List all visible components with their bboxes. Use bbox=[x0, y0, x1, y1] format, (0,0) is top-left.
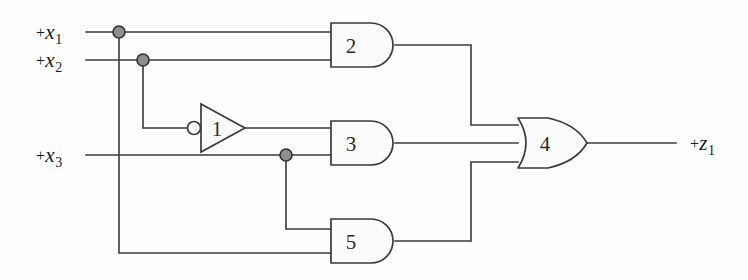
gate-2-body bbox=[331, 23, 393, 67]
junction-dot-x1 bbox=[113, 26, 125, 38]
inverter-bubble-icon bbox=[188, 122, 201, 135]
input-label-x3: +x3 bbox=[36, 143, 62, 171]
circuit-canvas: 2 3 5 4 1 bbox=[0, 0, 748, 280]
output-z1-sign: + bbox=[690, 135, 699, 152]
logic-circuit-diagram: 2 3 5 4 1 +x1 +x2 bbox=[0, 0, 748, 280]
input-label-x2: +x2 bbox=[36, 48, 62, 76]
wire-x2-to-inverter1 bbox=[143, 60, 188, 128]
gate-5-label: 5 bbox=[346, 230, 357, 254]
input-x1-var: x bbox=[45, 20, 55, 44]
input-x2-sub: 2 bbox=[55, 60, 63, 75]
junction-dot-x3 bbox=[280, 149, 292, 161]
gate-3-and[interactable]: 3 bbox=[331, 121, 393, 165]
gate-4-body bbox=[518, 118, 587, 168]
gate-5-body bbox=[331, 219, 393, 263]
wire-gate5-to-gate4 bbox=[395, 162, 518, 241]
input-label-x1: +x1 bbox=[36, 20, 62, 48]
output-label-z1: +z1 bbox=[690, 131, 715, 159]
gate-1-inverter[interactable]: 1 bbox=[188, 104, 246, 152]
wire-x3-to-gate5 bbox=[286, 155, 331, 229]
junction-dot-x2 bbox=[137, 54, 149, 66]
wire-x1-to-gate5 bbox=[119, 32, 331, 253]
gate-5-and[interactable]: 5 bbox=[331, 219, 393, 263]
input-x2-var: x bbox=[45, 48, 55, 72]
input-x3-var: x bbox=[45, 143, 55, 167]
gate-2-and[interactable]: 2 bbox=[331, 23, 393, 67]
gate-2-label: 2 bbox=[346, 34, 357, 58]
gate-1-body bbox=[201, 104, 245, 152]
gate-3-body bbox=[331, 121, 393, 165]
input-x1-sub: 1 bbox=[55, 32, 63, 47]
gate-3-label: 3 bbox=[346, 132, 357, 156]
gate-4-label: 4 bbox=[540, 132, 551, 156]
input-x2-sign: + bbox=[36, 52, 45, 69]
input-x1-sign: + bbox=[36, 24, 45, 41]
gate-4-or[interactable]: 4 bbox=[518, 118, 587, 168]
output-z1-var: z bbox=[699, 131, 707, 155]
input-x3-sub: 3 bbox=[55, 155, 63, 170]
output-z1-sub: 1 bbox=[708, 143, 716, 158]
wire-gate2-to-gate4 bbox=[395, 45, 518, 125]
gate-1-label: 1 bbox=[212, 117, 223, 141]
input-x3-sign: + bbox=[36, 147, 45, 164]
